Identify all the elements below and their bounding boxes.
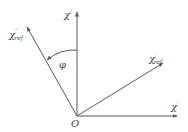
angle-phi-label: φ [59,59,66,70]
chi-prime-ref-label: χ′ref [148,51,164,66]
chi-double-prime-label: χ″ [63,8,73,20]
chi-prime-label: χ′ [170,100,179,112]
coordinate-rotation-diagram: χ″ χ′ χ″ref χ′ref φ O [0,0,188,132]
origin-label: O [71,118,79,129]
chi-double-prime-ref-label: χ″ref [8,27,25,42]
chi-prime-ref-ray [77,63,163,116]
chi-double-prime-ref-ray [27,27,77,116]
